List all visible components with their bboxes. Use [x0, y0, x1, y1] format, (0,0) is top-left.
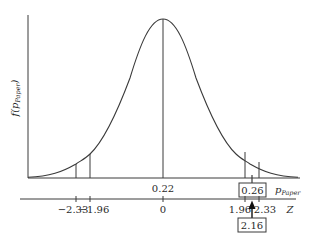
z-axis-label: Z [286, 204, 295, 215]
z-tick-label-neg-1-96: −1.96 [79, 204, 110, 215]
observed-p-label: 0.26 [241, 185, 263, 196]
y-axis-label: f(pPaper) [9, 79, 22, 117]
z-tick-label-pos-1-96: 1.96 [229, 204, 251, 215]
z-tick-label-pos-2-33: 2.33 [254, 204, 276, 215]
normal-distribution-diagram: f(pPaper) 0.22 0.26 pPaper −2.33 −1.96 0… [0, 0, 321, 242]
mean-label: 0.22 [152, 183, 174, 194]
z-tick-label-zero: 0 [160, 204, 166, 215]
observed-z-label: 2.16 [241, 220, 263, 231]
p-axis-label: pPaper [275, 184, 301, 197]
